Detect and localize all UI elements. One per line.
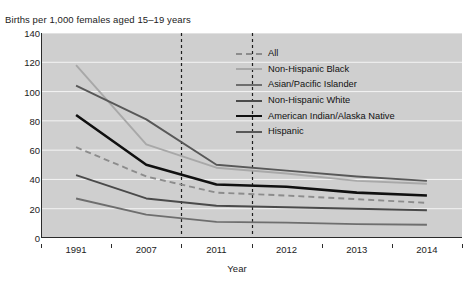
legend-item[interactable]: Hispanic [236, 124, 395, 140]
x-axis-ticks [41, 238, 464, 256]
y-axis-tick-label: 60 [6, 145, 40, 156]
legend-line-swatch [236, 53, 262, 55]
legend-item[interactable]: Non-Hispanic White [236, 93, 395, 109]
x-axis-title: Year [0, 263, 474, 274]
legend-line-swatch [236, 68, 262, 70]
legend-item-label: Non-Hispanic White [268, 96, 350, 105]
legend-line-swatch [236, 100, 262, 102]
legend-item-label: Asian/Pacific Islander [268, 80, 357, 89]
y-axis-tick-label: 120 [6, 57, 40, 68]
legend-line-swatch [236, 84, 262, 86]
y-axis-tick-labels: 020406080100120140 [0, 0, 40, 283]
teen-birth-rate-line-chart: Births per 1,000 females aged 15–19 year… [0, 0, 474, 283]
series-line [76, 198, 427, 224]
y-axis-tick-label: 20 [6, 203, 40, 214]
legend-line-swatch [236, 131, 262, 133]
legend-item-label: Non-Hispanic Black [268, 65, 349, 74]
legend-item[interactable]: American Indian/Alaska Native [236, 108, 395, 124]
legend-item-label: All [268, 49, 278, 58]
legend-item[interactable]: All [236, 46, 395, 62]
y-axis-tick-label: 100 [6, 86, 40, 97]
chart-legend: AllNon-Hispanic BlackAsian/Pacific Islan… [236, 46, 395, 140]
legend-item-label: American Indian/Alaska Native [268, 112, 395, 121]
legend-item[interactable]: Non-Hispanic Black [236, 62, 395, 78]
legend-line-swatch [236, 115, 262, 117]
y-axis-tick-label: 80 [6, 115, 40, 126]
y-axis-tick-label: 0 [6, 233, 40, 244]
y-axis-tick-label: 140 [6, 28, 40, 39]
legend-item-label: Hispanic [268, 127, 304, 136]
y-axis-tick-label: 40 [6, 174, 40, 185]
legend-item[interactable]: Asian/Pacific Islander [236, 77, 395, 93]
